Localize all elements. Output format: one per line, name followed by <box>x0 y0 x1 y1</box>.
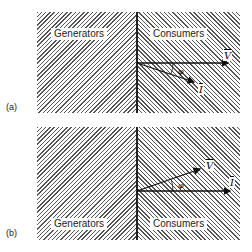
phasor-diagram-a <box>37 12 240 113</box>
current-symbol: I <box>229 177 235 188</box>
panel-a: Generators Consumers V I φ <box>37 12 240 113</box>
panel-a-tag: (a) <box>6 102 17 112</box>
phasor-diagram-b <box>37 127 240 240</box>
angle-phi-label: φ <box>178 181 184 190</box>
panel-b-tag: (b) <box>6 228 17 238</box>
voltage-phasor-arrow <box>137 169 200 191</box>
voltage-symbol: V <box>223 50 232 61</box>
angle-arc <box>171 179 173 191</box>
current-symbol: I <box>198 84 204 95</box>
angle-arc <box>171 63 173 74</box>
voltage-symbol: V <box>205 160 214 171</box>
panel-b: Generators Consumers V I φ <box>37 127 240 240</box>
angle-phi-label: φ <box>178 67 184 76</box>
current-phasor-arrow <box>137 63 194 82</box>
